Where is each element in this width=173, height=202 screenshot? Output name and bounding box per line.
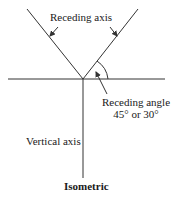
- diagram-title: Isometric: [64, 180, 109, 192]
- left-axis-arrow: [50, 27, 58, 36]
- receding-angle-line1: Receding angle: [100, 96, 172, 108]
- right-axis-arrow: [110, 27, 117, 36]
- receding-angle-line2: 45° or 30°: [100, 108, 172, 120]
- angle-arrow: [96, 72, 107, 94]
- receding-angle-label: Receding angle 45° or 30°: [100, 96, 172, 120]
- receding-axis-label: Receding axis: [50, 11, 112, 23]
- vertical-axis-label: Vertical axis: [26, 135, 81, 147]
